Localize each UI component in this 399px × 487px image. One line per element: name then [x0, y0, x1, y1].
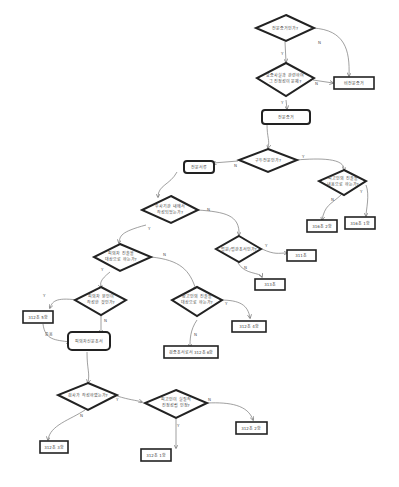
node-label: 검사가 작성하였는가? [68, 392, 107, 398]
edge-label-yes: Y [264, 243, 268, 248]
node-label: 피의자신문조서 [75, 338, 103, 344]
edge-label-no: N [331, 197, 334, 202]
edge-label-yes: Y [280, 100, 284, 105]
node-label: 피고인이 실질적 [161, 396, 190, 402]
edge-label-yes: Y [224, 301, 228, 306]
node-label: 312조 1항 [146, 452, 165, 458]
node-label: 진정성립 인정? [162, 402, 189, 408]
edge-label-includes: 준용 [45, 332, 53, 337]
node-label: 311조 [295, 253, 307, 258]
node-label: 316조 1항 [350, 220, 369, 226]
edge-label-no: N [80, 413, 83, 418]
edge-label-yes: Y [359, 189, 363, 194]
edge-label-no: N [207, 207, 210, 212]
edge-label-no: N [315, 81, 318, 86]
node-label: 피고인의 진술을 [328, 175, 357, 181]
edge-label-yes: Y [280, 51, 284, 56]
edge-label-no: N [318, 40, 321, 45]
node-label: 316조 2항 [312, 223, 331, 229]
edge-label-no: N [194, 332, 197, 337]
edge-label-no: N [163, 252, 166, 257]
edge-label-no: N [104, 318, 107, 323]
node-label: 검증조서로서 312조 6항 [169, 349, 214, 355]
edge-label-yes: Y [100, 267, 104, 272]
node-label: 구두전문인가? [255, 157, 281, 163]
edge-label-yes: Y [301, 154, 305, 159]
flowchart: N Y N Y N Y N Y N Y Y N Y N Y N Y N 준용 N… [0, 0, 399, 487]
node-label: 312조 2항 [241, 425, 260, 431]
node-label: 작성되었는가? [157, 209, 183, 215]
node-label: 312조 3항 [44, 444, 63, 450]
node-label: 전문증거인가? [272, 25, 298, 31]
node-label: 수사기관 내에서 [155, 203, 184, 209]
node-label: 312조 5항 [28, 314, 47, 320]
node-label: 참고인의 진술을 [182, 293, 211, 299]
node-label: 내용으로 하는가? [327, 181, 358, 187]
edge-label-no: N [208, 397, 211, 402]
edge-label-yes: Y [42, 293, 46, 298]
node-label: 비전문증거 [344, 80, 364, 86]
edge-label-yes: Y [147, 226, 151, 231]
node-label: 대상으로 하는가? [181, 299, 212, 305]
node-label: 312조 4항 [239, 323, 258, 329]
edge-label-no: N [234, 163, 237, 168]
node-label: 전문증거 [278, 114, 294, 120]
node-label: 작성한 것인가? [87, 299, 114, 305]
node-label: 피의자 본인이 [88, 293, 113, 299]
node-label: 그 진정성이 문제? [269, 78, 302, 84]
node-label: 313조 [264, 282, 276, 287]
node-label: 피의자 진술을 [108, 250, 133, 256]
edge-labels: N Y N Y N Y N Y N Y Y N Y N Y N Y N 준용 N… [42, 40, 363, 428]
edge-label-yes: Y [115, 397, 119, 402]
edge-label-no: N [244, 265, 247, 270]
node-label: 요증사실과 관련하여 [266, 72, 303, 78]
node-label: 전문서류 [191, 164, 207, 170]
edge-label-yes: Y [176, 423, 180, 428]
node-label: 대상으로 하는가? [105, 256, 136, 262]
node-label: 법원/법관조서인가? [221, 246, 256, 252]
